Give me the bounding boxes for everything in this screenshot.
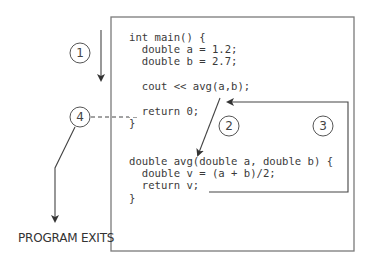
step-2-arrow xyxy=(198,98,220,155)
step-1-label: 1 xyxy=(70,43,90,63)
code-line-avg-signature: double avg(double a, double b) { xyxy=(129,155,333,167)
code-line-double-a: double a = 1.2; xyxy=(129,43,237,55)
control-flow-diagram: 1 2 3 4 PROGRAM EXITS int main() { doubl… xyxy=(0,0,370,264)
code-line-cout-call: cout << avg(a,b); xyxy=(129,80,250,92)
code-line-main-close: } xyxy=(129,117,135,129)
code-line-double-b: double b = 2.7; xyxy=(129,55,237,67)
code-line-double-v: double v = (a + b)/2; xyxy=(129,167,276,179)
code-line-avg-close: } xyxy=(129,192,135,204)
step-4-exit-arrow xyxy=(55,127,75,221)
step-2-label: 2 xyxy=(219,116,239,136)
program-exits-label: PROGRAM EXITS xyxy=(18,231,114,245)
code-line-return-v: return v; xyxy=(129,179,199,191)
code-line-return-0: return 0; xyxy=(129,105,201,117)
step-3-label: 3 xyxy=(313,116,333,136)
code-line-main-signature: int main() { xyxy=(129,31,206,43)
step-4-label: 4 xyxy=(70,107,90,127)
